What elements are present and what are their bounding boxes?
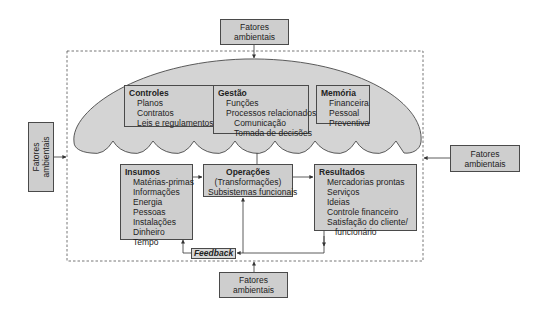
insumos-item: Instalações [125,217,188,227]
insumos-item: Tempo [125,237,188,247]
env-label-line2: ambientais [234,32,275,42]
gestao-item: Processos relacionados [218,108,304,118]
gestao-box: Gestão Funções Processos relacionados Co… [213,85,309,134]
env-label-line1: Fatores [240,22,269,32]
env-factors-right: Fatores ambientais [450,145,520,172]
controles-item: Contratos [129,108,210,118]
resultados-item: Mercadorias prontas [319,177,412,187]
operacoes-line: Subsistemas funcionais [208,187,288,197]
feedback-label: Feedback [194,248,233,258]
env-label-line1: Fatores [31,136,41,177]
env-label-line1: Fatores [471,149,500,159]
resultados-item: Controle financeiro [319,207,412,217]
memoria-item: Financeira [321,98,365,108]
insumos-item: Dinheiro [125,227,188,237]
feedback-box: Feedback [191,248,236,259]
operacoes-line: (Transformações) [208,177,288,187]
controles-item: Leis e regulamentos [129,118,210,128]
resultados-item: Satisfação do cliente/ [319,217,412,227]
controles-title: Controles [129,88,210,98]
insumos-box: Insumos Matérias-primas Informações Ener… [120,164,193,240]
operacoes-box: Operações (Transformações) Subsistemas f… [203,164,293,197]
env-factors-bottom: Fatores ambientais [219,272,288,298]
controles-box: Controles Planos Contratos Leis e regula… [124,85,215,127]
insumos-item: Energia [125,197,188,207]
controles-item: Planos [129,98,210,108]
env-label-line1: Fatores [239,275,268,285]
resultados-title: Resultados [319,167,412,177]
operacoes-title: Operações [208,167,288,177]
resultados-item: Ideias [319,197,412,207]
gestao-subitem: Tomada de decisões [218,128,304,138]
insumos-item: Matérias-primas [125,177,188,187]
gestao-item: Funções [218,98,304,108]
memoria-item: Pessoal [321,108,365,118]
env-factors-top: Fatores ambientais [220,19,289,45]
insumos-item: Informações [125,187,188,197]
env-label-line2: ambientais [233,285,274,295]
gestao-title: Gestão [218,88,304,98]
env-factors-left: Fatores ambientais [28,122,54,192]
resultados-box: Resultados Mercadorias prontas Serviços … [314,164,417,231]
insumos-item: Pessoas [125,207,188,217]
memoria-item: Preventiva [321,118,365,128]
insumos-title: Insumos [125,167,188,177]
memoria-box: Memória Financeira Pessoal Preventiva [316,85,370,124]
resultados-subitem: funcionário [319,227,412,237]
env-label-line2: ambientais [41,136,51,177]
resultados-item: Serviços [319,187,412,197]
memoria-title: Memória [321,88,365,98]
gestao-subitem: Comunicação [218,118,304,128]
env-label-line2: ambientais [464,159,505,169]
